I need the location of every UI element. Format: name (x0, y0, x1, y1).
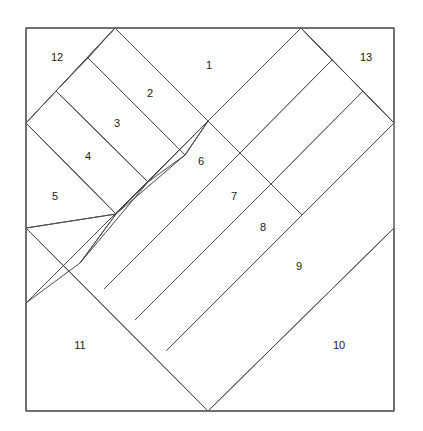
piece-number-label-1: 1 (206, 59, 212, 71)
quilt-block-diagram: 12345678910111213 (0, 0, 423, 431)
piece-number-label-12: 12 (51, 51, 63, 63)
piece-number-label-2: 2 (147, 87, 153, 99)
piece-number-label-6: 6 (198, 155, 204, 167)
piece-number-label-3: 3 (114, 117, 120, 129)
piece-number-label-11: 11 (74, 339, 85, 351)
piece-number-label-4: 4 (85, 150, 91, 162)
piece-number-label-10: 10 (333, 339, 345, 351)
piece-number-label-5: 5 (52, 190, 58, 202)
piece-number-label-7: 7 (231, 190, 237, 202)
piece-number-label-8: 8 (260, 221, 266, 233)
piece-number-label-9: 9 (296, 260, 302, 272)
piece-number-label-13: 13 (360, 51, 372, 63)
